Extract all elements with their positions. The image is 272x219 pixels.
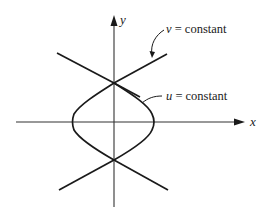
v-curve-upper-right (114, 54, 167, 83)
coordinate-diagram: y x v = constant u = constant (0, 0, 272, 219)
y-axis-label: y (120, 13, 126, 26)
diagram-canvas (0, 0, 272, 219)
v-label-leader (152, 30, 164, 55)
v-constant-text: = constant (172, 22, 227, 36)
v-leader-arrow-icon (150, 51, 156, 58)
y-axis-arrow-icon (111, 15, 118, 26)
x-axis-arrow-icon (234, 119, 245, 126)
v-curve-lower-right (114, 160, 168, 190)
u-constant-text: = constant (172, 89, 227, 103)
v-curve-lower-left (59, 160, 114, 190)
v-curve-upper-left (57, 53, 114, 83)
u-constant-label: u = constant (166, 90, 227, 103)
x-axis-label: x (250, 115, 256, 128)
v-constant-label: v = constant (166, 23, 227, 36)
u-label-leader (142, 96, 162, 103)
